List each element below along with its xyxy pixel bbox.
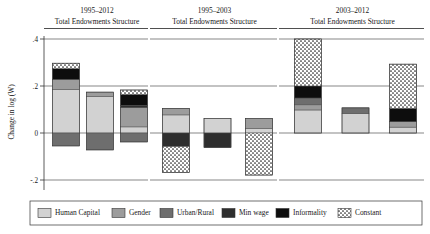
bar-segment bbox=[204, 133, 231, 148]
y-axis: .4.20-.2Change in log (W) bbox=[7, 36, 44, 190]
bar-segment bbox=[162, 147, 189, 173]
bar-segment bbox=[121, 108, 148, 127]
bar-segment bbox=[204, 118, 231, 133]
bar-segment bbox=[121, 90, 148, 94]
bar-segment bbox=[294, 86, 321, 98]
bar-segment bbox=[87, 133, 114, 150]
panel-subtitle-1: Total Endowments Structure bbox=[55, 17, 140, 26]
bar-segment bbox=[294, 39, 321, 86]
panel-titles: 1995–2012Total Endowments Structure1995–… bbox=[44, 6, 424, 29]
bar-segment bbox=[294, 110, 321, 133]
legend-swatch-human-capital bbox=[38, 209, 51, 218]
bar-segment bbox=[294, 105, 321, 110]
legend-label-informality: Informality bbox=[293, 208, 327, 217]
legend-swatch-gender bbox=[112, 209, 125, 218]
bar-segment bbox=[162, 133, 189, 147]
panel-subtitle-2: Total Endowments Structure bbox=[172, 17, 257, 26]
bars-layer bbox=[53, 39, 417, 175]
endowments-structure-chart: 1995–2012Total Endowments Structure1995–… bbox=[0, 0, 430, 234]
bar-segment bbox=[390, 127, 417, 133]
bar-segment bbox=[87, 92, 114, 96]
bar-segment bbox=[121, 105, 148, 107]
legend: Human CapitalGenderUrban/RuralMin wageIn… bbox=[30, 201, 422, 225]
y-tick-label-0: 0 bbox=[34, 130, 38, 138]
y-tick-label-.4: .4 bbox=[33, 36, 39, 44]
panel-title-1: 1995–2012 bbox=[80, 6, 114, 15]
bar-segment bbox=[162, 115, 189, 133]
bar-segment bbox=[246, 118, 273, 128]
bar-segment bbox=[53, 133, 80, 146]
legend-swatch-constant bbox=[338, 209, 351, 218]
bar-segment bbox=[53, 90, 80, 133]
bar-segment bbox=[246, 133, 273, 175]
bar-segment bbox=[294, 98, 321, 105]
legend-swatch-informality bbox=[276, 209, 289, 218]
bar-segment bbox=[121, 127, 148, 133]
bar-segment bbox=[53, 79, 80, 89]
legend-label-gender: Gender bbox=[129, 208, 151, 217]
legend-label-constant: Constant bbox=[355, 208, 382, 217]
bar-segment bbox=[53, 63, 80, 68]
panel-title-2: 1995–2003 bbox=[198, 6, 232, 15]
bar-segment bbox=[342, 108, 369, 114]
y-tick-label--.2: -.2 bbox=[30, 177, 38, 185]
bar-segment bbox=[87, 97, 114, 133]
bar-segment bbox=[390, 108, 417, 121]
legend-label-human-capital: Human Capital bbox=[55, 208, 100, 217]
bar-segment bbox=[390, 64, 417, 108]
legend-swatch-min-wage bbox=[222, 209, 235, 218]
bar-segment bbox=[53, 69, 80, 80]
bar-segment bbox=[121, 133, 148, 142]
chart-svg: 1995–2012Total Endowments Structure1995–… bbox=[0, 0, 430, 234]
bar-segment bbox=[390, 122, 417, 127]
y-tick-label-.2: .2 bbox=[33, 83, 39, 91]
bar-segment bbox=[246, 129, 273, 133]
legend-swatch-urban-rural bbox=[160, 209, 173, 218]
y-axis-title: Change in log (W) bbox=[7, 84, 16, 140]
bar-segment bbox=[162, 108, 189, 115]
bar-segment bbox=[121, 94, 148, 105]
legend-label-urban-rural: Urban/Rural bbox=[177, 208, 214, 217]
bar-segment bbox=[342, 114, 369, 133]
panel-subtitle-3: Total Endowments Structure bbox=[310, 17, 395, 26]
legend-label-min-wage: Min wage bbox=[239, 208, 269, 217]
panel-title-3: 2003–2012 bbox=[336, 6, 370, 15]
